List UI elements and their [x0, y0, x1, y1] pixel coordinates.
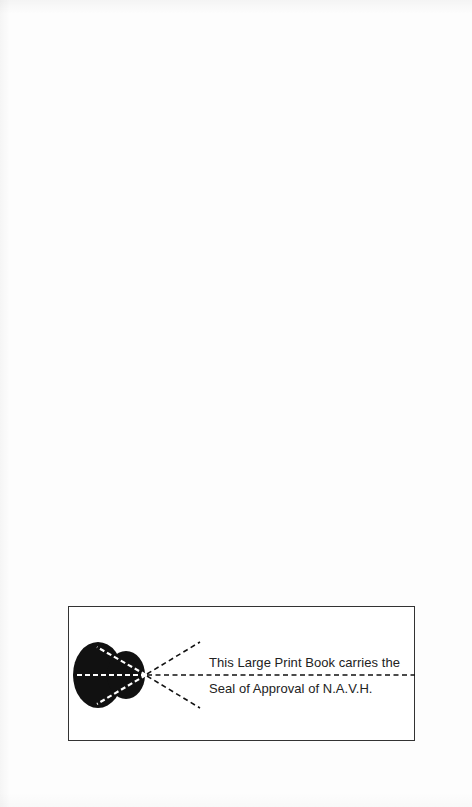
- seal-text-line-2: Seal of Approval of N.A.V.H.: [209, 681, 373, 696]
- large-print-seal-box: This Large Print Book carries the Seal o…: [68, 606, 415, 741]
- eye-icon: [69, 607, 416, 742]
- seal-text-line-1: This Large Print Book carries the: [209, 655, 400, 670]
